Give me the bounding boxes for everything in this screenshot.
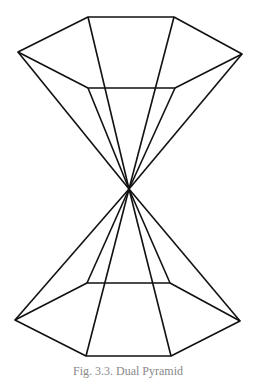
top-hexagon <box>18 17 242 88</box>
bottom-hexagon <box>15 283 240 356</box>
figure-caption: Fig. 3.3. Dual Pyramid <box>0 364 256 379</box>
